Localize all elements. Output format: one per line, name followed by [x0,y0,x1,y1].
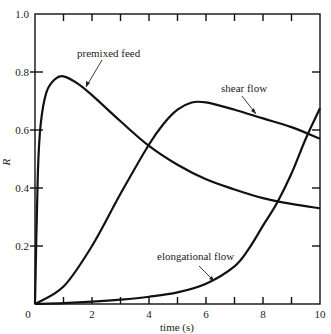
xtick-label: 10 [315,308,327,320]
shear-flow-label: shear flow [221,82,267,94]
xtick-label: 2 [89,308,95,320]
xtick-label: 0 [25,308,31,320]
ytick-label: 0.6 [15,124,29,136]
y-axis-label: R [0,158,12,166]
xtick-label: 4 [146,308,152,320]
ytick-label: 1.0 [15,8,29,20]
elongational-flow-curve [35,108,320,304]
ytick-label: 0.2 [15,240,29,252]
ytick-label: 0.8 [15,66,29,78]
x-axis-label: time (s) [160,321,194,334]
xtick-label: 8 [260,308,266,320]
ytick-label: 0.4 [15,182,29,194]
chart-svg: 0.2 0.4 0.6 0.8 1.0 0 2 4 6 8 10 time (s… [0,0,331,334]
xtick-label: 6 [203,308,209,320]
premixed-feed-label: premixed feed [77,47,141,59]
elongational-flow-label: elongational flow [157,250,234,262]
chart-figure: 0.2 0.4 0.6 0.8 1.0 0 2 4 6 8 10 time (s… [0,0,331,334]
